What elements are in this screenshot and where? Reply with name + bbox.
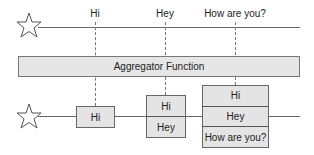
output-item: Hey [147,117,185,137]
output-window-2: Hi Hey [146,95,186,138]
top-label-how-are-you: How are you? [200,8,270,19]
top-stream-line [38,27,300,28]
output-window-3: Hi Hey How are you? [202,85,269,148]
output-item: Hi [147,96,185,117]
output-item: Hi [77,107,114,127]
output-item: Hey [203,107,268,128]
output-item: Hi [203,86,268,107]
aggregator-label: Aggregator Function [114,61,205,72]
aggregator-function-box: Aggregator Function [18,56,300,77]
star-icon [16,12,42,38]
top-label-hey: Hey [150,8,180,19]
output-window-1: Hi [76,106,115,128]
output-item: How are you? [203,127,268,147]
top-label-hi: Hi [80,8,110,19]
